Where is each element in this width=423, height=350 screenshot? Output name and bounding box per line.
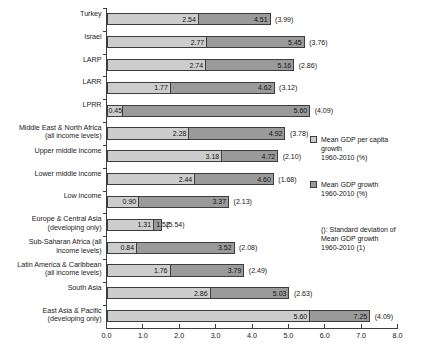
y-tick: [103, 76, 107, 77]
bar-value-gdp-growth: 3.52: [139, 243, 231, 252]
y-tick: [103, 236, 107, 237]
category-label: LPRR: [0, 101, 102, 109]
y-tick: [103, 168, 107, 169]
category-label: Upper middle income: [0, 147, 102, 155]
y-tick: [103, 282, 107, 283]
x-tick: [252, 324, 253, 328]
bar-value-per-capita: 2.28: [109, 129, 187, 138]
bar-value-gdp-growth: 3.79: [173, 266, 242, 275]
legend-swatch-per-capita: [310, 136, 317, 143]
x-tick: [288, 324, 289, 328]
bar-value-gdp-growth: 5.16: [208, 61, 291, 70]
y-tick: [103, 259, 107, 260]
x-tick: [106, 324, 107, 328]
standard-deviation-label: (4.09): [375, 312, 393, 321]
bar-value-per-capita: 0.84: [109, 243, 135, 252]
x-tick-label: 6.0: [311, 331, 339, 340]
x-tick-label: 2.0: [165, 331, 193, 340]
y-tick: [103, 31, 107, 32]
x-tick-label: 3.0: [202, 331, 230, 340]
category-label: Lower middle income: [0, 170, 102, 178]
category-label: LARP: [0, 56, 102, 64]
bar-value-gdp-growth: 4.72: [224, 152, 275, 161]
standard-deviation-label: (3.78): [290, 129, 308, 138]
category-label: South Asia: [0, 284, 102, 292]
standard-deviation-label: (2.49): [249, 266, 267, 275]
legend-swatch-gdp-growth: [310, 181, 317, 188]
y-tick: [103, 213, 107, 214]
bar-value-gdp-growth: 4.60: [197, 175, 271, 184]
bar-value-per-capita: 0.45: [109, 106, 121, 115]
x-tick: [142, 324, 143, 328]
x-axis-line: [106, 328, 398, 329]
bar-value-gdp-growth: 5.60: [125, 106, 307, 115]
standard-deviation-label: (3.76): [309, 38, 327, 47]
bar-value-gdp-growth: 7.25: [312, 312, 367, 321]
category-label: Israel: [0, 33, 102, 41]
y-tick: [103, 122, 107, 123]
bar-value-gdp-growth: 5.45: [209, 38, 301, 47]
category-label: Turkey: [0, 10, 102, 18]
x-tick: [361, 324, 362, 328]
standard-deviation-label: (2.63): [294, 289, 312, 298]
gdp-growth-bar-chart: Turkey2.544.51(3.99)Israel2.775.45(3.76)…: [0, 0, 423, 350]
standard-deviation-label: (2.08): [239, 243, 257, 252]
bar-value-gdp-growth: 4.62: [173, 83, 272, 92]
bar-value-gdp-growth: 4.51: [201, 15, 268, 24]
x-tick-label: 0.0: [93, 331, 121, 340]
standard-deviation-label: (5.54): [166, 220, 184, 229]
y-tick: [103, 8, 107, 9]
y-tick: [103, 54, 107, 55]
y-tick: [103, 305, 107, 306]
category-label: Europe & Central Asia (developing only): [0, 215, 102, 232]
bar-value-per-capita: 2.86: [109, 289, 208, 298]
bar-value-per-capita: 5.60: [109, 312, 308, 321]
x-tick-label: 5.0: [274, 331, 302, 340]
category-label: East Asia & Pacific (developing only): [0, 307, 102, 324]
legend-label-per-capita: Mean GDP per capita growth 1960-2010 (%): [321, 135, 423, 163]
x-tick-label: 7.0: [347, 331, 375, 340]
category-label: LARR: [0, 78, 102, 86]
x-tick-label: 8.0: [384, 331, 412, 340]
bar-value-per-capita: 1.31: [109, 220, 152, 229]
category-label: Middle East & North Africa (all income l…: [0, 124, 102, 141]
standard-deviation-label: (2.86): [299, 61, 317, 70]
standard-deviation-label: (3.99): [275, 15, 293, 24]
bar-value-per-capita: 3.18: [109, 152, 220, 161]
bar-value-per-capita: 2.74: [109, 61, 204, 70]
standard-deviation-label: (4.09): [315, 106, 333, 115]
category-label: Low income: [0, 192, 102, 200]
bar-value-per-capita: 2.77: [109, 38, 205, 47]
bar-value-per-capita: 0.90: [109, 197, 137, 206]
category-label: Latin America & Caribbean (all income le…: [0, 261, 102, 278]
x-tick: [215, 324, 216, 328]
bar-value-per-capita: 1.77: [109, 83, 168, 92]
bar-value-gdp-growth: 4.92: [191, 129, 282, 138]
legend-label-gdp-growth: Mean GDP growth 1960-2010 (%): [321, 180, 423, 198]
x-tick-label: 1.0: [129, 331, 157, 340]
x-tick-label: 4.0: [238, 331, 266, 340]
y-tick: [103, 99, 107, 100]
y-tick: [103, 191, 107, 192]
bar-value-per-capita: 2.54: [109, 15, 196, 24]
x-tick: [324, 324, 325, 328]
x-tick: [179, 324, 180, 328]
legend-note-standard-deviation: (): Standard deviation of Mean GDP growt…: [321, 225, 423, 253]
standard-deviation-label: (2.10): [283, 152, 301, 161]
bar-value-per-capita: 2.44: [109, 175, 193, 184]
standard-deviation-label: (2.13): [234, 197, 252, 206]
bar-value-gdp-growth: 5.03: [213, 289, 287, 298]
category-label: Sub-Saharan Africa (all income levels): [0, 238, 102, 255]
y-tick: [103, 145, 107, 146]
bar-value-per-capita: 1.76: [109, 266, 168, 275]
bar-value-gdp-growth: 3.37: [141, 197, 226, 206]
standard-deviation-label: (1.68): [278, 175, 296, 184]
x-tick: [397, 324, 398, 328]
standard-deviation-label: (3.12): [279, 83, 297, 92]
